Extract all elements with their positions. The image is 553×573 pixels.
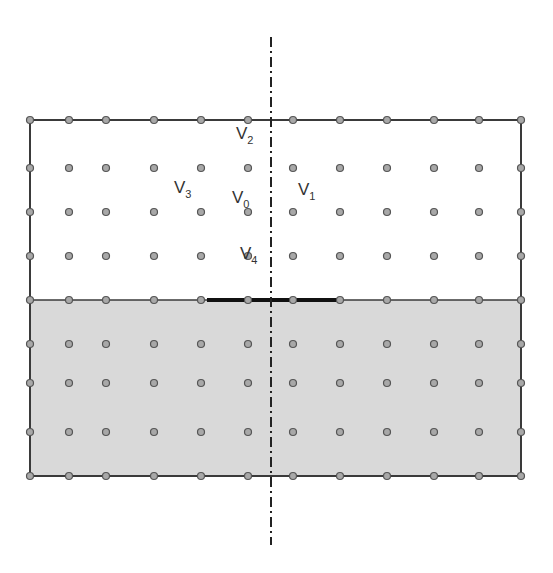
- label-v4: V4: [240, 244, 257, 266]
- grid-node: [337, 473, 344, 480]
- grid-node: [245, 297, 252, 304]
- grid-node: [66, 253, 73, 260]
- grid-node: [151, 341, 158, 348]
- grid-node: [66, 209, 73, 216]
- grid-node: [384, 341, 391, 348]
- grid-node: [431, 253, 438, 260]
- grid-node: [518, 473, 525, 480]
- grid-node: [518, 253, 525, 260]
- grid-node: [103, 117, 110, 124]
- label-v2: V2: [236, 124, 253, 146]
- grid-node: [476, 341, 483, 348]
- grid-node: [518, 165, 525, 172]
- grid-node: [245, 117, 252, 124]
- grid-node: [290, 209, 297, 216]
- label-v1: V1: [298, 180, 315, 202]
- grid-node: [337, 117, 344, 124]
- grid-node: [245, 380, 252, 387]
- lower-shaded-region: [30, 300, 521, 476]
- grid-node: [518, 380, 525, 387]
- grid-node: [431, 429, 438, 436]
- grid-node: [151, 253, 158, 260]
- grid-node: [290, 473, 297, 480]
- grid-node: [384, 253, 391, 260]
- grid-node: [290, 297, 297, 304]
- grid-node: [518, 341, 525, 348]
- grid-node: [290, 429, 297, 436]
- grid-node: [384, 165, 391, 172]
- grid-node: [151, 117, 158, 124]
- grid-node: [103, 380, 110, 387]
- grid-node: [476, 473, 483, 480]
- grid-node: [198, 473, 205, 480]
- grid-node: [66, 117, 73, 124]
- grid-node: [518, 117, 525, 124]
- grid-node: [431, 117, 438, 124]
- grid-node: [476, 253, 483, 260]
- grid-node: [198, 297, 205, 304]
- grid-node: [27, 341, 34, 348]
- grid-node: [245, 341, 252, 348]
- grid-node: [66, 341, 73, 348]
- grid-node: [337, 297, 344, 304]
- grid-node: [66, 429, 73, 436]
- grid-node: [476, 429, 483, 436]
- grid-node: [198, 253, 205, 260]
- grid-node: [198, 209, 205, 216]
- grid-node: [245, 429, 252, 436]
- grid-node: [27, 117, 34, 124]
- grid-node: [476, 117, 483, 124]
- grid-node: [337, 209, 344, 216]
- grid-node: [103, 297, 110, 304]
- grid-node: [476, 380, 483, 387]
- grid-node: [66, 165, 73, 172]
- grid-node: [103, 165, 110, 172]
- grid-node: [384, 117, 391, 124]
- grid-node: [151, 473, 158, 480]
- grid-node: [476, 297, 483, 304]
- grid-node: [337, 380, 344, 387]
- grid-node: [27, 297, 34, 304]
- grid-node: [27, 209, 34, 216]
- grid-node: [384, 209, 391, 216]
- grid-node: [27, 253, 34, 260]
- grid-node: [290, 253, 297, 260]
- grid-node: [198, 429, 205, 436]
- grid-node: [476, 165, 483, 172]
- grid-node: [151, 165, 158, 172]
- grid-node: [151, 209, 158, 216]
- grid-node: [518, 209, 525, 216]
- grid-node: [103, 473, 110, 480]
- grid-node: [384, 473, 391, 480]
- grid-node: [337, 341, 344, 348]
- grid-node: [198, 165, 205, 172]
- grid-node: [103, 253, 110, 260]
- grid-node: [151, 380, 158, 387]
- grid-diagram: [0, 0, 553, 573]
- grid-node: [27, 473, 34, 480]
- grid-node: [431, 209, 438, 216]
- grid-node: [245, 473, 252, 480]
- grid-node: [27, 380, 34, 387]
- grid-node: [384, 297, 391, 304]
- label-v3: V3: [174, 178, 191, 200]
- grid-node: [518, 297, 525, 304]
- grid-node: [384, 429, 391, 436]
- grid-node: [431, 297, 438, 304]
- grid-node: [103, 341, 110, 348]
- grid-node: [66, 380, 73, 387]
- grid-node: [151, 429, 158, 436]
- grid-node: [198, 117, 205, 124]
- grid-node: [431, 165, 438, 172]
- grid-node: [384, 380, 391, 387]
- grid-node: [27, 429, 34, 436]
- grid-node: [103, 429, 110, 436]
- grid-node: [337, 429, 344, 436]
- grid-node: [337, 253, 344, 260]
- grid-node: [290, 380, 297, 387]
- grid-node: [198, 380, 205, 387]
- grid-node: [27, 165, 34, 172]
- grid-node: [66, 473, 73, 480]
- grid-node: [66, 297, 73, 304]
- grid-node: [198, 341, 205, 348]
